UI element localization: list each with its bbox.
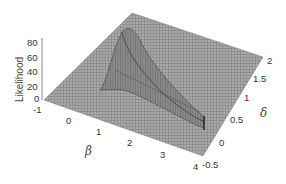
z-tick-40: 40 bbox=[27, 67, 38, 77]
x-tick--1: -1 bbox=[33, 105, 41, 115]
y-tick--0.5: -0.5 bbox=[202, 160, 218, 170]
x-axis-label: β bbox=[85, 145, 92, 157]
y-axis-label: δ bbox=[260, 107, 267, 119]
x-tick-2: 2 bbox=[127, 138, 132, 148]
y-tick-1.5: 1.5 bbox=[253, 74, 266, 84]
x-tick-0: 0 bbox=[66, 116, 71, 126]
y-tick-1: 1 bbox=[244, 93, 249, 103]
z-tick-80: 80 bbox=[27, 38, 38, 48]
z-tick-0: 0 bbox=[34, 94, 39, 104]
z-tick-20: 20 bbox=[27, 82, 38, 92]
x-tick-1: 1 bbox=[96, 127, 101, 137]
y-tick-0.5: 0.5 bbox=[230, 115, 243, 125]
z-tick-60: 60 bbox=[27, 53, 38, 63]
y-tick-0: 0 bbox=[219, 138, 224, 148]
z-axis-label: Likelihood bbox=[15, 57, 25, 102]
x-tick-4: 4 bbox=[193, 162, 198, 172]
x-tick-3: 3 bbox=[160, 150, 165, 160]
y-tick-2: 2 bbox=[267, 56, 272, 66]
